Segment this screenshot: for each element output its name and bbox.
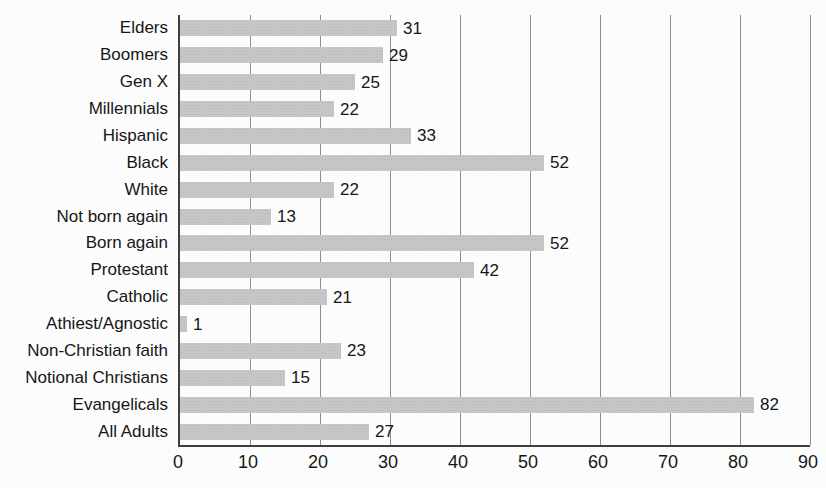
- bar-row: 42: [180, 257, 810, 284]
- bar-row: 82: [180, 391, 810, 418]
- value-label: 25: [361, 74, 380, 91]
- bar: [180, 20, 397, 36]
- x-tick-label-80: 80: [728, 452, 748, 474]
- bar: [180, 47, 383, 63]
- value-label: 13: [277, 208, 296, 225]
- bar-row: 13: [180, 203, 810, 230]
- category-label: Non-Christian faith: [0, 338, 168, 365]
- bar-row: 1: [180, 311, 810, 338]
- category-label: Protestant: [0, 257, 168, 284]
- bar-row: 52: [180, 149, 810, 176]
- bar: [180, 209, 271, 225]
- bar: [180, 370, 285, 386]
- category-label: Boomers: [0, 42, 168, 69]
- category-label: All Adults: [0, 418, 168, 445]
- category-label: Born again: [0, 230, 168, 257]
- value-label: 21: [333, 289, 352, 306]
- bar-row: 22: [180, 176, 810, 203]
- value-label: 22: [340, 181, 359, 198]
- value-label: 22: [340, 101, 359, 118]
- value-label: 33: [417, 127, 436, 144]
- x-tick-label-50: 50: [518, 452, 538, 474]
- value-label: 82: [760, 396, 779, 413]
- category-label: Hispanic: [0, 123, 168, 150]
- bar: [180, 155, 544, 171]
- bar: [180, 316, 187, 332]
- value-label: 1: [193, 316, 202, 333]
- bar-chart: EldersBoomersGen XMillennialsHispanicBla…: [0, 0, 826, 488]
- value-label: 15: [291, 369, 310, 386]
- bar-row: 25: [180, 69, 810, 96]
- x-tick-label-90: 90: [798, 452, 818, 474]
- x-axis-tick-labels: 0102030405060708090: [178, 452, 808, 478]
- x-tick-label-30: 30: [378, 452, 398, 474]
- bar-row: 27: [180, 418, 810, 445]
- bar: [180, 235, 544, 251]
- x-tick-label-40: 40: [448, 452, 468, 474]
- bar-row: 33: [180, 123, 810, 150]
- bar-row: 21: [180, 284, 810, 311]
- x-tick-label-20: 20: [308, 452, 328, 474]
- value-label: 29: [389, 47, 408, 64]
- bar-row: 23: [180, 338, 810, 365]
- bar: [180, 397, 754, 413]
- gridline-90: [810, 15, 811, 445]
- category-label: Gen X: [0, 69, 168, 96]
- bar: [180, 101, 334, 117]
- bar-row: 29: [180, 42, 810, 69]
- bar-row: 15: [180, 364, 810, 391]
- bar: [180, 182, 334, 198]
- category-label: Elders: [0, 15, 168, 42]
- bar-row: 52: [180, 230, 810, 257]
- y-axis-category-labels: EldersBoomersGen XMillennialsHispanicBla…: [0, 15, 168, 445]
- category-label: Millennials: [0, 96, 168, 123]
- x-tick-label-60: 60: [588, 452, 608, 474]
- x-tick-label-70: 70: [658, 452, 678, 474]
- value-label: 23: [347, 342, 366, 359]
- category-label: Catholic: [0, 284, 168, 311]
- bar: [180, 128, 411, 144]
- value-label: 42: [480, 262, 499, 279]
- category-label: Black: [0, 149, 168, 176]
- x-tick-label-0: 0: [173, 452, 183, 474]
- value-label: 27: [375, 423, 394, 440]
- bar: [180, 424, 369, 440]
- category-label: Evangelicals: [0, 391, 168, 418]
- category-label: Athiest/Agnostic: [0, 311, 168, 338]
- value-label: 52: [550, 154, 569, 171]
- plot-area: 3129252233522213524221123158227: [178, 15, 810, 447]
- value-label: 52: [550, 235, 569, 252]
- x-tick-label-10: 10: [238, 452, 258, 474]
- bar-row: 22: [180, 96, 810, 123]
- category-label: White: [0, 176, 168, 203]
- bar: [180, 343, 341, 359]
- value-label: 31: [403, 20, 422, 37]
- bar: [180, 262, 474, 278]
- category-label: Not born again: [0, 203, 168, 230]
- category-label: Notional Christians: [0, 364, 168, 391]
- bar-row: 31: [180, 15, 810, 42]
- bar: [180, 74, 355, 90]
- bar: [180, 289, 327, 305]
